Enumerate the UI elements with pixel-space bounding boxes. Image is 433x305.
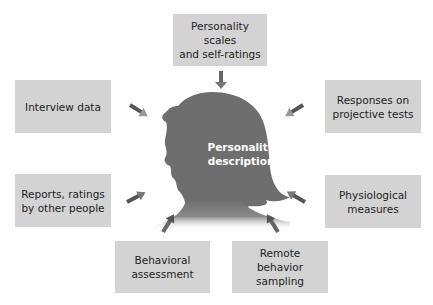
arrow-icon-top <box>215 71 227 89</box>
source-label: Reports, ratings by other people <box>21 187 105 215</box>
source-box-remote-behavior-sampling: Remote behavior sampling <box>232 241 328 293</box>
source-box-interview-data: Interview data <box>15 80 111 133</box>
source-label: Interview data <box>25 100 101 114</box>
source-box-physiological-measures: Physiological measures <box>325 175 421 228</box>
source-box-projective-tests: Responses on projective tests <box>325 80 421 133</box>
arrow-icon-projective <box>283 101 306 121</box>
source-label: Physiological measures <box>339 188 407 216</box>
arrow-icon-interview <box>127 101 150 121</box>
arrow-icon-reports <box>125 188 148 207</box>
source-label: Personality scales and self-ratings <box>177 19 263 61</box>
source-label: Behavioral assessment <box>131 253 193 281</box>
source-box-reports-ratings: Reports, ratings by other people <box>15 174 111 227</box>
source-label: Remote behavior sampling <box>256 246 304 288</box>
source-box-personality-scales: Personality scales and self-ratings <box>173 14 267 66</box>
source-label: Responses on projective tests <box>332 93 413 121</box>
center-label-personality-description: Personality description <box>196 140 286 168</box>
source-box-behavioral-assessment: Behavioral assessment <box>115 241 210 293</box>
